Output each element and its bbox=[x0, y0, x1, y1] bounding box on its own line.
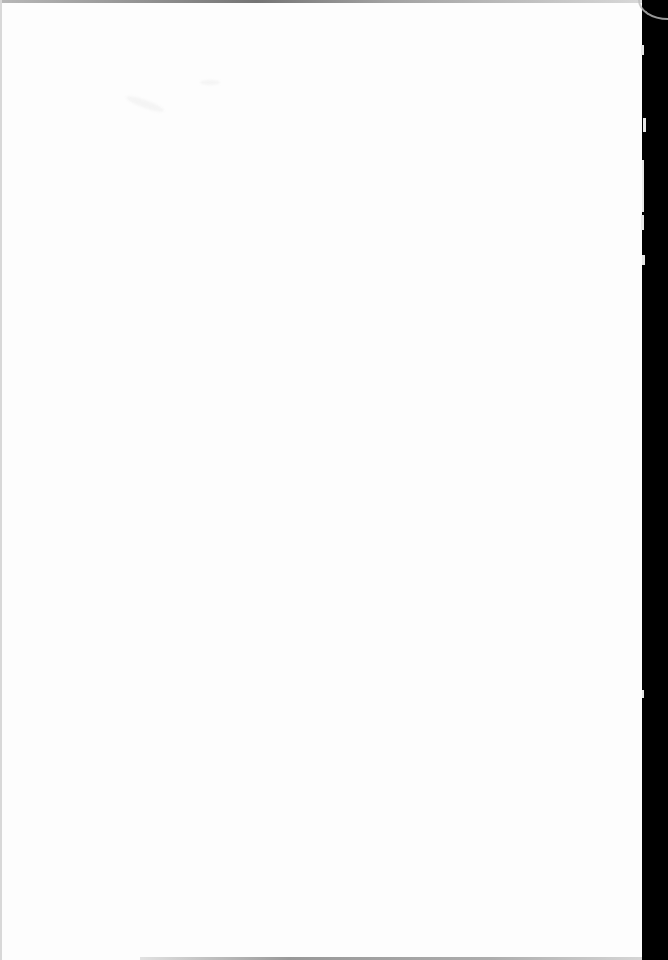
binding-edge-nick bbox=[643, 118, 646, 132]
binding-edge-nick bbox=[641, 215, 644, 230]
page-top-edge-shadow bbox=[0, 0, 642, 3]
binding-edge-nick bbox=[642, 690, 644, 698]
binding-edge-nick bbox=[641, 45, 644, 55]
page-left-edge bbox=[0, 0, 2, 960]
scanned-page bbox=[0, 0, 642, 960]
binding-edge-nick bbox=[642, 255, 645, 265]
book-binding-gutter bbox=[642, 0, 668, 960]
bleed-through-smudge bbox=[125, 93, 165, 114]
bleed-through-smudge bbox=[200, 80, 220, 85]
binding-edge-nick bbox=[642, 160, 644, 212]
